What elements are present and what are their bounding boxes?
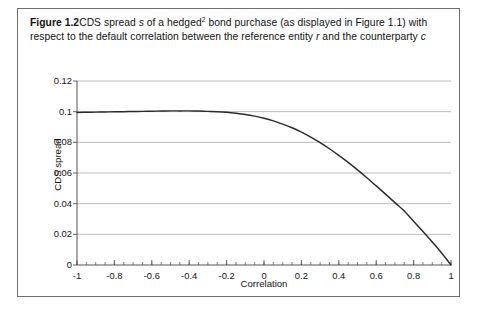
figure-number: Figure 1.2 (30, 17, 79, 28)
figure-frame: Figure 1.2CDS spread s of a hedged2 bond… (17, 8, 460, 297)
chart-plot-area: 00.020.040.060.080.10.12 -1-0.8-0.6-0.4-… (18, 67, 459, 297)
y-axis-title: CDS spread (52, 120, 63, 210)
x-axis-tick-labels: -1-0.8-0.6-0.4-0.200.20.40.60.81 (18, 67, 459, 297)
caption-text-2: of a hedged (144, 17, 202, 28)
caption-italic-c: c (421, 31, 426, 42)
caption-text-4: and the counterparty (319, 31, 420, 42)
figure-caption: Figure 1.2CDS spread s of a hedged2 bond… (30, 16, 448, 44)
x-axis-title: Correlation (77, 278, 451, 289)
caption-text-1: CDS spread (79, 17, 139, 28)
